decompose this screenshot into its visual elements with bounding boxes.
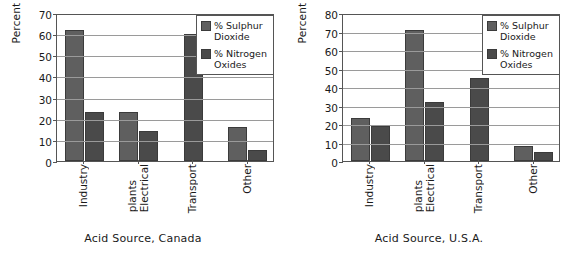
y-axis-tick-mark — [53, 77, 57, 78]
bar-group — [112, 15, 167, 161]
gridline — [343, 125, 559, 126]
x-axis-tick-label-line: Electrical — [424, 164, 436, 212]
legend-swatch-icon — [201, 49, 211, 59]
x-axis-tick-labels-usa: IndustryElectricalplantsTransportOther — [342, 164, 560, 226]
plot-area-usa: Percent 01020304050607080 IndustryElectr… — [286, 0, 572, 264]
legend-label: % Nitrogen Oxides — [214, 48, 268, 70]
gridline — [57, 120, 273, 121]
y-axis-tick-label: 20 — [325, 120, 338, 132]
y-axis-tick-label: 50 — [325, 65, 338, 77]
legend-swatch-icon — [487, 21, 497, 31]
bar — [228, 127, 247, 161]
y-axis-tick-mark — [53, 162, 57, 163]
acid-source-bar-chart-figure: Percent 010203040506070 IndustryElectric… — [0, 0, 573, 264]
y-axis-tick-label: 40 — [325, 83, 338, 95]
x-axis-title-usa: Acid Source, U.S.A. — [286, 232, 572, 245]
legend-usa: % Sulphur Dioxide% Nitrogen Oxides — [482, 15, 560, 75]
legend-item: % Nitrogen Oxides — [201, 48, 268, 70]
bar — [470, 78, 489, 161]
y-axis-tick-label: 60 — [39, 30, 52, 42]
bar — [425, 102, 444, 161]
y-axis-tick-label: 80 — [325, 9, 338, 21]
x-axis-tick-label-line: Other — [241, 164, 253, 194]
x-axis-tick-label: Other — [501, 164, 565, 194]
x-axis-tick-label: Other — [215, 164, 279, 194]
x-axis-tick-label-line: Industry — [77, 164, 89, 207]
y-axis-tick-mark — [339, 125, 343, 126]
bar — [139, 131, 158, 161]
x-axis-tick-labels-canada: IndustryElectricalplantsTransportOther — [56, 164, 274, 226]
gridline — [343, 107, 559, 108]
y-axis-tick-mark — [53, 56, 57, 57]
y-axis-tick-mark — [339, 162, 343, 163]
gridline — [343, 144, 559, 145]
y-axis-tick-label: 70 — [325, 28, 338, 40]
legend-canada: % Sulphur Dioxide% Nitrogen Oxides — [196, 15, 274, 75]
y-axis-tick-label: 40 — [39, 72, 52, 84]
x-axis-tick-label-line: plants — [412, 164, 424, 212]
x-axis-tick-label-line: Transport — [472, 164, 484, 213]
bar — [534, 152, 553, 161]
x-axis-tick-label-line: Other — [527, 164, 539, 194]
y-axis-tick-mark — [339, 14, 343, 15]
legend-label: % Sulphur Dioxide — [500, 20, 554, 42]
y-axis-tick-mark — [339, 107, 343, 108]
y-axis-tick-mark — [53, 141, 57, 142]
legend-item: % Sulphur Dioxide — [201, 20, 268, 42]
y-axis-tick-label: 50 — [39, 51, 52, 63]
y-axis-tick-label: 10 — [39, 136, 52, 148]
gridline — [343, 88, 559, 89]
chart-panel-usa: Percent 01020304050607080 IndustryElectr… — [286, 0, 572, 264]
y-axis-tick-mark — [53, 120, 57, 121]
legend-swatch-icon — [201, 21, 211, 31]
bar — [405, 30, 424, 161]
bar — [514, 146, 533, 161]
bar — [248, 150, 267, 161]
x-axis-tick-label-line: plants — [126, 164, 138, 212]
y-axis-title-usa: Percent — [296, 0, 310, 73]
y-axis-title-canada: Percent — [10, 0, 24, 73]
legend-label: % Sulphur Dioxide — [214, 20, 268, 42]
y-axis-tick-label: 30 — [39, 94, 52, 106]
y-axis-tick-label: 60 — [325, 46, 338, 58]
chart-panel-canada: Percent 010203040506070 IndustryElectric… — [0, 0, 286, 264]
y-axis-tick-mark — [53, 35, 57, 36]
bar-group — [57, 15, 112, 161]
x-axis-tick-label-line: Industry — [363, 164, 375, 207]
y-axis-tick-mark — [339, 33, 343, 34]
y-axis-tick-mark — [339, 70, 343, 71]
x-axis-tick-label-line: Transport — [186, 164, 198, 213]
y-axis-tick-mark — [339, 88, 343, 89]
y-axis-tick-label: 10 — [325, 139, 338, 151]
legend-item: % Sulphur Dioxide — [487, 20, 554, 42]
legend-swatch-icon — [487, 49, 497, 59]
gridline — [57, 141, 273, 142]
y-axis-tick-label: 30 — [325, 102, 338, 114]
y-axis-tick-mark — [339, 144, 343, 145]
y-axis-tick-mark — [339, 51, 343, 52]
y-axis-tick-label: 70 — [39, 9, 52, 21]
plot-area-canada: Percent 010203040506070 IndustryElectric… — [0, 0, 286, 264]
x-axis-tick-label-line: Electrical — [138, 164, 150, 212]
gridline — [57, 77, 273, 78]
legend-item: % Nitrogen Oxides — [487, 48, 554, 70]
y-axis-tick-label: 20 — [39, 115, 52, 127]
gridline — [57, 99, 273, 100]
x-axis-title-canada: Acid Source, Canada — [0, 232, 286, 245]
y-axis-tick-mark — [53, 14, 57, 15]
legend-label: % Nitrogen Oxides — [500, 48, 554, 70]
y-axis-tick-mark — [53, 99, 57, 100]
